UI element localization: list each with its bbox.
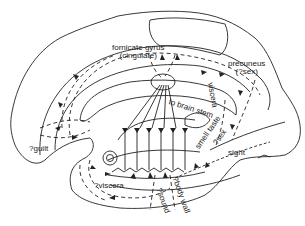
hippocampus-arc [108, 150, 200, 160]
temporal-sulcus-2 [175, 142, 270, 178]
label-precuneus-line2: (?sex) [228, 68, 265, 76]
label-fornicate-line2: (cingulate) [112, 52, 164, 60]
label-fornicate-gyrus: fornicate gyrus (cingulate) [112, 44, 164, 60]
label-precuneus: precuneus (?sex) [228, 60, 265, 76]
brain-diagram [0, 0, 305, 226]
label-sight: sight [228, 149, 245, 157]
hippocampus-base [108, 172, 205, 178]
fiber-arrowheads [122, 128, 188, 133]
vertical-fibers [125, 128, 185, 170]
thalamus-fan [128, 85, 176, 128]
label-viscera: ?viscera [94, 182, 124, 190]
hippocampus-coil [103, 151, 117, 165]
label-guilt: ?guilt [29, 145, 48, 153]
